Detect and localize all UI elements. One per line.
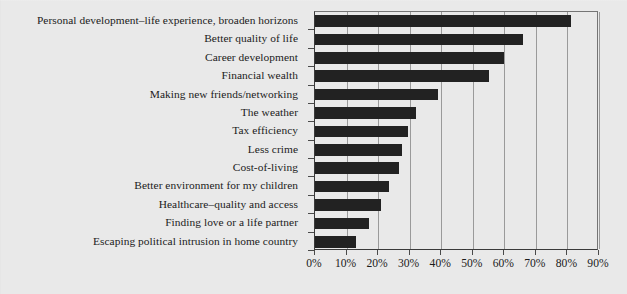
category-label: Better quality of life [204,29,298,47]
bar [315,15,571,27]
x-axis-tick [598,250,599,255]
bar-row [315,122,597,140]
bar-chart: Personal development–life experience, br… [0,0,627,294]
x-axis-tick [314,250,315,255]
bar-row [315,177,597,195]
bar-row [315,104,597,122]
category-label-column: Personal development–life experience, br… [0,11,306,250]
bar [315,181,389,193]
category-label: Cost-of-living [233,158,298,176]
x-axis-tick-label: 30% [398,256,419,272]
x-axis-tick [535,250,536,255]
bar-row [315,86,597,104]
bar [315,34,523,46]
category-label: Escaping political intrusion in home cou… [93,232,298,250]
x-axis-tick-label: 60% [493,256,514,272]
bar [315,52,504,64]
gridline [599,12,600,249]
x-axis-tick [440,250,441,255]
x-axis-tick-label: 40% [430,256,451,272]
plot-area [314,11,598,250]
category-label: Making new friends/networking [150,85,298,103]
x-axis-tick [472,250,473,255]
bar-row [315,49,597,67]
category-label: Career development [205,48,298,66]
category-label: Less crime [248,140,298,158]
category-label: The weather [241,103,298,121]
bar [315,126,408,138]
bar-row [315,67,597,85]
bar [315,218,369,230]
x-axis-tick-label: 70% [524,256,545,272]
bar-row [315,196,597,214]
bar-row [315,141,597,159]
category-label: Financial wealth [222,66,298,84]
bar [315,107,416,119]
x-axis-tick-label: 50% [461,256,482,272]
category-label: Personal development–life experience, br… [37,11,298,29]
x-axis-tick-label: 80% [556,256,577,272]
bar-row [315,30,597,48]
category-label: Finding love or a life partner [165,213,298,231]
bar [315,89,438,101]
bar [315,144,402,156]
bar-row [315,12,597,30]
x-axis-tick-label: 10% [335,256,356,272]
bar-row [315,214,597,232]
x-axis-tick-label: 0% [306,256,321,272]
bar [315,199,381,211]
x-axis-tick-label: 20% [366,256,387,272]
x-axis-tick [503,250,504,255]
bar [315,236,356,248]
bar [315,70,489,82]
category-label: Tax efficiency [232,121,298,139]
x-axis-tick [346,250,347,255]
bar-row [315,233,597,251]
category-label: Healthcare–quality and access [159,195,298,213]
bar-row [315,159,597,177]
x-axis-tick-labels: 0%10%20%30%40%50%60%70%80%90% [314,256,598,274]
x-axis-tick [409,250,410,255]
x-axis-tick [377,250,378,255]
category-label: Better environment for my children [134,176,298,194]
x-axis-tick-label: 90% [587,256,608,272]
x-axis-tick [566,250,567,255]
bar [315,162,399,174]
